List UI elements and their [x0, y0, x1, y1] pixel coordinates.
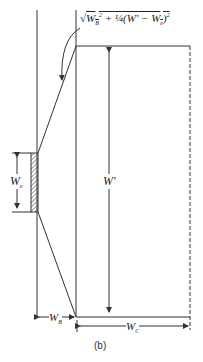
diagram-canvas: [0, 0, 203, 362]
wc-label: WC: [126, 320, 139, 334]
wprime-label: W': [103, 174, 116, 189]
wb-label: WB: [49, 311, 62, 325]
figure-caption: (b): [94, 340, 106, 351]
curved-arrow: [62, 28, 80, 80]
formula-label: √WB2 + ¼(W' − We)2: [80, 12, 170, 26]
lower-slant: [38, 212, 76, 317]
we-label: We: [10, 174, 23, 189]
hatched-block: [31, 153, 38, 212]
upper-slant: [38, 46, 76, 153]
